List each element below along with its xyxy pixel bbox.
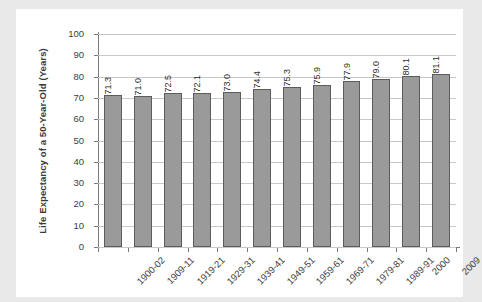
bar-value-label: 72.5 bbox=[164, 75, 173, 93]
bar-value-label: 71.3 bbox=[104, 77, 113, 95]
bar-slot: 75.3 bbox=[277, 34, 307, 247]
y-tick-label: 20 bbox=[58, 199, 84, 209]
x-tick-label: 1919-21 bbox=[195, 255, 226, 286]
bar-slot: 75.9 bbox=[307, 34, 337, 247]
y-tick-label: 60 bbox=[58, 114, 84, 124]
bar[interactable] bbox=[402, 76, 420, 247]
x-tick-label: 1900-02 bbox=[136, 255, 167, 286]
x-tick-mark bbox=[396, 248, 397, 252]
bar-value-label: 75.3 bbox=[283, 69, 292, 87]
x-tick-label: 1979-81 bbox=[374, 255, 405, 286]
bar-slot: 73.0 bbox=[217, 34, 247, 247]
bar[interactable] bbox=[164, 93, 182, 247]
bar-value-label: 73.0 bbox=[223, 73, 232, 91]
x-tick-label: 1939-41 bbox=[255, 255, 286, 286]
chart-panel: Life Expectancy of a 50-Year-Old (Years)… bbox=[16, 9, 463, 297]
bar-series: 71.371.072.572.173.074.475.375.977.979.0… bbox=[98, 34, 456, 247]
bar[interactable] bbox=[134, 96, 152, 247]
x-tick-label: 1949-51 bbox=[285, 255, 316, 286]
y-tick-label: 0 bbox=[58, 242, 84, 252]
y-tick-label: 10 bbox=[58, 221, 84, 231]
bar-slot: 80.1 bbox=[396, 34, 426, 247]
bar-value-label: 72.1 bbox=[193, 75, 202, 93]
bar[interactable] bbox=[223, 92, 241, 247]
y-tick-label: 40 bbox=[58, 157, 84, 167]
x-tick-label: 1969-71 bbox=[344, 255, 375, 286]
y-axis-title: Life Expectancy of a 50-Year-Old (Years) bbox=[35, 35, 51, 247]
y-tick-label: 90 bbox=[58, 50, 84, 60]
x-tick-label: 2000 bbox=[430, 255, 452, 277]
x-tick-mark bbox=[456, 248, 457, 252]
x-tick-mark bbox=[337, 248, 338, 252]
y-tick-label: 80 bbox=[58, 72, 84, 82]
x-tick-mark bbox=[158, 248, 159, 252]
x-tick-mark bbox=[217, 248, 218, 252]
y-tick-label: 70 bbox=[58, 93, 84, 103]
bar[interactable] bbox=[193, 93, 211, 247]
bar-value-label: 80.1 bbox=[402, 58, 411, 76]
x-tick-label: 1909-11 bbox=[165, 255, 196, 286]
y-tick-label: 30 bbox=[58, 178, 84, 188]
x-tick-mark bbox=[426, 248, 427, 252]
x-tick-mark bbox=[98, 248, 99, 252]
bar-slot: 74.4 bbox=[247, 34, 277, 247]
bar-slot: 79.0 bbox=[366, 34, 396, 247]
bar-value-label: 81.1 bbox=[432, 56, 441, 74]
x-tick-mark bbox=[277, 248, 278, 252]
bar[interactable] bbox=[432, 74, 450, 247]
bar-slot: 72.5 bbox=[158, 34, 188, 247]
x-tick-mark bbox=[367, 248, 368, 252]
bar-slot: 71.3 bbox=[98, 34, 128, 247]
bar-value-label: 77.9 bbox=[343, 63, 352, 81]
bar-slot: 77.9 bbox=[337, 34, 367, 247]
y-tick-label: 100 bbox=[58, 29, 84, 39]
x-tick-label: 2009 bbox=[460, 255, 482, 277]
x-tick-mark bbox=[307, 248, 308, 252]
bar[interactable] bbox=[372, 79, 390, 247]
bar[interactable] bbox=[283, 87, 301, 247]
x-tick-mark bbox=[128, 248, 129, 252]
bar-value-label: 71.0 bbox=[134, 78, 143, 96]
x-tick-mark bbox=[247, 248, 248, 252]
bar[interactable] bbox=[343, 81, 361, 247]
bar-value-label: 79.0 bbox=[372, 61, 381, 79]
y-tick-label: 50 bbox=[58, 136, 84, 146]
bar-slot: 72.1 bbox=[187, 34, 217, 247]
plot-area: 71.371.072.572.173.074.475.375.977.979.0… bbox=[98, 34, 456, 247]
bar[interactable] bbox=[253, 89, 271, 247]
x-tick-label: 1959-61 bbox=[315, 255, 346, 286]
x-tick-mark bbox=[188, 248, 189, 252]
bar-slot: 71.0 bbox=[128, 34, 158, 247]
bar-value-label: 75.9 bbox=[313, 67, 322, 85]
bar[interactable] bbox=[313, 85, 331, 247]
bar-value-label: 74.4 bbox=[253, 70, 262, 88]
bar[interactable] bbox=[104, 95, 122, 247]
bar-slot: 81.1 bbox=[426, 34, 456, 247]
x-tick-label: 1929-31 bbox=[225, 255, 256, 286]
